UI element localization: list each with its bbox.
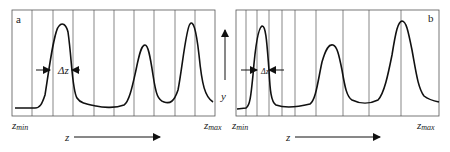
- panel-a-gridlines: [32, 10, 195, 116]
- panel-b-frame: [236, 10, 439, 116]
- panel-a: Δz a zmin zmax z: [11, 10, 222, 143]
- panel-a-delta-z-marker: Δz: [36, 64, 80, 76]
- diagram-canvas: Δz a zmin zmax z y Δz b zmin zmax z: [0, 0, 450, 152]
- panel-a-zmin-label: zmin: [11, 119, 28, 132]
- panel-b-label: b: [428, 12, 434, 24]
- panel-b-z-axis-label: z: [285, 131, 291, 143]
- y-axis: y: [220, 30, 226, 102]
- delta-z-label: Δz: [57, 64, 69, 76]
- panel-b-curve: [237, 21, 439, 109]
- panel-a-label: a: [16, 13, 21, 25]
- panel-b-zmin-label: zmin: [231, 119, 248, 132]
- delta-z-label: Δz: [260, 67, 270, 76]
- panel-a-z-axis-label: z: [64, 131, 70, 143]
- panel-a-zmax-label: zmax: [203, 119, 222, 132]
- panel-b-zmax-label: zmax: [416, 119, 435, 132]
- panel-b: Δz b zmin zmax z: [231, 10, 439, 143]
- panel-b-delta-z-marker: Δz: [241, 67, 284, 76]
- y-axis-label: y: [220, 90, 226, 102]
